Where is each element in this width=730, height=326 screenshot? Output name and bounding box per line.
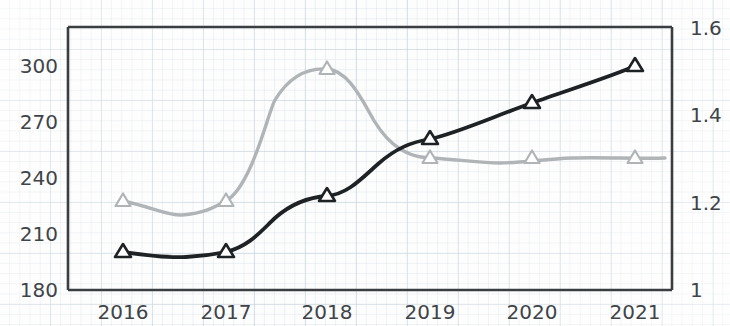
left-tick-210: 210 [20, 222, 58, 246]
dark-marker-2016 [115, 244, 131, 257]
left-tick-180: 180 [20, 278, 58, 302]
gray-series-line [123, 69, 665, 215]
x-tick-2016: 2016 [98, 300, 149, 324]
right-tick-1-4: 1.4 [690, 103, 722, 127]
gray-series-markers [116, 62, 643, 207]
gray-marker-2016 [116, 194, 131, 207]
x-tick-2019: 2019 [405, 300, 456, 324]
left-tick-300: 300 [20, 54, 58, 78]
x-axis-tick-labels: 2016 2017 2018 2019 2020 2021 [98, 300, 661, 324]
dark-series-line [123, 66, 635, 257]
x-tick-2020: 2020 [507, 300, 558, 324]
right-axis-tick-labels: 1 1.2 1.4 1.6 [690, 16, 722, 302]
right-tick-1-2: 1.2 [690, 191, 722, 215]
chart-canvas: 180 210 240 270 300 1 1.2 1.4 1.6 2016 2… [0, 0, 730, 326]
left-axis-tick-labels: 180 210 240 270 300 [20, 54, 58, 302]
dark-marker-2021 [627, 58, 643, 71]
x-tick-2017: 2017 [201, 300, 252, 324]
gray-marker-2020 [525, 151, 540, 164]
right-tick-1-6: 1.6 [690, 16, 722, 40]
left-tick-270: 270 [20, 110, 58, 134]
right-tick-1: 1 [690, 278, 703, 302]
x-tick-2021: 2021 [610, 300, 661, 324]
line-chart-plot: 180 210 240 270 300 1 1.2 1.4 1.6 2016 2… [0, 0, 730, 326]
x-tick-2018: 2018 [302, 300, 353, 324]
left-tick-240: 240 [20, 166, 58, 190]
